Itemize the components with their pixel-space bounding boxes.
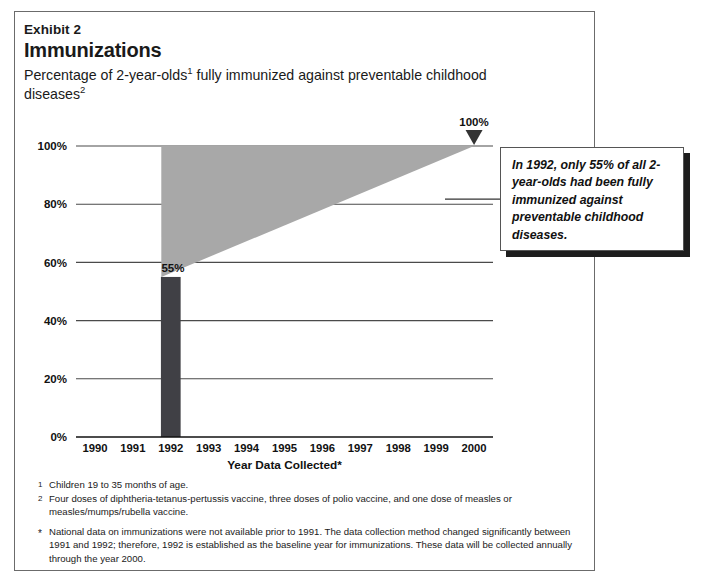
- asterisk-note-text: National data on immunizations were not …: [49, 525, 583, 565]
- callout-box: In 1992, only 55% of all 2-year-olds had…: [500, 147, 684, 251]
- exhibit-label: Exhibit 2: [24, 22, 529, 38]
- footnote-text: Four doses of diphtheria-tetanus-pertuss…: [49, 492, 558, 518]
- chart-subtitle: Percentage of 2-year-olds1 fully immuniz…: [24, 66, 529, 104]
- footnote-marker: 1: [38, 478, 49, 491]
- footnote-item: 2Four doses of diphtheria-tetanus-pertus…: [38, 492, 558, 518]
- subtitle-text-1: Percentage of 2-year-olds: [24, 67, 187, 83]
- footnote-item: 1Children 19 to 35 months of age.: [38, 478, 558, 491]
- footnotes: 1Children 19 to 35 months of age.2Four d…: [38, 478, 558, 520]
- asterisk-note: * National data on immunizations were no…: [38, 525, 583, 565]
- page-title: Immunizations: [24, 39, 529, 62]
- subtitle-footnote-ref-2: 2: [80, 84, 85, 95]
- callout-text: In 1992, only 55% of all 2-year-olds had…: [512, 157, 675, 244]
- chart-header: Exhibit 2 Immunizations Percentage of 2-…: [24, 22, 529, 104]
- footnote-marker: 2: [38, 492, 49, 518]
- asterisk-note-marker: *: [38, 525, 49, 565]
- footnote-text: Children 19 to 35 months of age.: [49, 478, 558, 491]
